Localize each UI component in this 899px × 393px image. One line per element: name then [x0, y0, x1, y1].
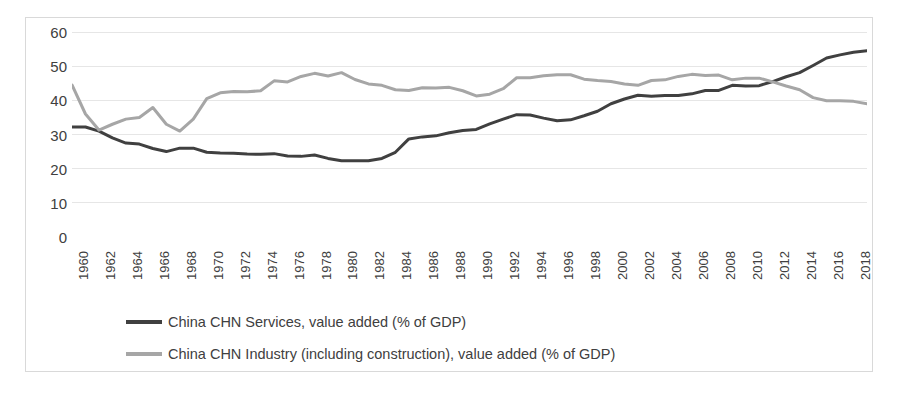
- plot-area: [72, 32, 867, 237]
- x-axis-tick-label: 1962: [104, 251, 117, 280]
- legend-color-swatch: [126, 352, 162, 356]
- x-axis-tick-label: 2008: [724, 251, 737, 280]
- legend-color-swatch: [126, 320, 162, 324]
- x-axis-tick-label: 1986: [427, 251, 440, 280]
- x-axis-tick-label: 1974: [266, 251, 279, 280]
- x-axis-tick-label: 1982: [373, 251, 386, 280]
- x-axis-tick-label: 1978: [320, 251, 333, 280]
- x-axis-tick-label: 1992: [508, 251, 521, 280]
- x-axis-tick-label: 1990: [481, 251, 494, 280]
- y-axis-tick-label: 60: [27, 25, 67, 40]
- x-axis-tick-label: 1972: [239, 251, 252, 280]
- y-axis-tick-label: 40: [27, 93, 67, 108]
- x-axis-tick-label: 2002: [643, 251, 656, 280]
- x-axis-tick-label: 1984: [400, 251, 413, 280]
- data-series-line: [72, 51, 867, 161]
- x-axis-tick-label: 1976: [293, 251, 306, 280]
- x-axis-tick-label: 2014: [805, 251, 818, 280]
- legend-item[interactable]: China CHN Services, value added (% of GD…: [126, 306, 826, 338]
- x-axis-tick-label: 1980: [346, 251, 359, 280]
- x-axis-tick-label: 1966: [158, 251, 171, 280]
- x-axis-tick-label: 1994: [535, 251, 548, 280]
- y-axis-tick-label: 30: [27, 128, 67, 143]
- x-axis-tick-label: 1988: [454, 251, 467, 280]
- legend-item[interactable]: China CHN Industry (including constructi…: [126, 338, 826, 370]
- x-axis-tick-label: 2006: [697, 251, 710, 280]
- x-axis-tick-label: 1960: [77, 251, 90, 280]
- x-axis-tick-label: 2012: [778, 251, 791, 280]
- y-axis: 0102030405060: [26, 18, 72, 244]
- chart-plot-wrapper: 0102030405060 19601962196419661968197019…: [26, 18, 872, 371]
- x-axis-tick-label: 2010: [751, 251, 764, 280]
- chart-legend: China CHN Services, value added (% of GD…: [126, 306, 826, 370]
- y-axis-tick-label: 20: [27, 162, 67, 177]
- x-axis-tick-label: 2016: [832, 251, 845, 280]
- data-series-line: [72, 73, 867, 131]
- x-axis-tick-label: 1964: [131, 251, 144, 280]
- x-axis-tick-label: 1968: [185, 251, 198, 280]
- x-axis-tick-label: 1998: [589, 251, 602, 280]
- y-axis-tick-label: 0: [27, 230, 67, 245]
- chart-card: 0102030405060 19601962196419661968197019…: [25, 17, 873, 372]
- y-axis-tick-label: 10: [27, 196, 67, 211]
- x-axis-tick-label: 2004: [670, 251, 683, 280]
- legend-item-label: China CHN Industry (including constructi…: [168, 346, 615, 362]
- legend-item-label: China CHN Services, value added (% of GD…: [168, 314, 466, 330]
- line-chart-svg: [72, 32, 867, 237]
- x-axis-tick-label: 1996: [562, 251, 575, 280]
- y-axis-tick-label: 50: [27, 59, 67, 74]
- x-axis-tick-label: 1970: [212, 251, 225, 280]
- x-axis-tick-label: 2000: [616, 251, 629, 280]
- x-axis: 1960196219641966196819701972197419761978…: [72, 242, 867, 298]
- x-axis-tick-label: 2018: [859, 251, 872, 280]
